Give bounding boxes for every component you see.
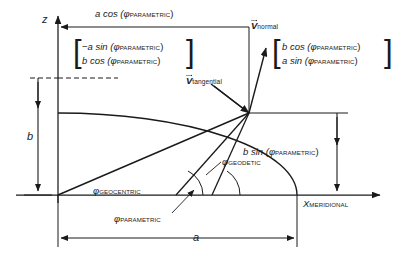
label-a-cos-phi: a cos (φPARAMETRIC) bbox=[95, 9, 173, 19]
matrix-normal-row-2: a sin (φPARAMETRIC) bbox=[282, 55, 360, 67]
tangential-r2-prefix: b cos ( bbox=[82, 55, 111, 66]
vector-arrow-accent-tangential bbox=[186, 74, 192, 77]
label-phi-parametric-sub: PARAMETRIC bbox=[120, 216, 161, 223]
matrix-normal-right-bracket: ] bbox=[384, 36, 393, 67]
vector-normal-arrow bbox=[249, 48, 266, 113]
label-a-cos-phi-suffix: ) bbox=[170, 8, 173, 19]
tangential-r2-sub: PARAMETRIC bbox=[117, 58, 158, 65]
ray-group bbox=[58, 113, 249, 195]
tangential-r1-prefix: −a sin ( bbox=[82, 41, 113, 52]
normal-r2-prefix: a sin ( bbox=[282, 55, 308, 66]
leader-parametric bbox=[172, 190, 194, 213]
matrix-normal-row-1: b cos (φPARAMETRIC) bbox=[282, 41, 360, 53]
label-a-cos-phi-prefix: a cos ( bbox=[95, 8, 124, 19]
arc-parametric bbox=[188, 171, 203, 195]
label-a-cos-phi-sub: PARAMETRIC bbox=[130, 11, 171, 18]
vector-tangential-arrow bbox=[211, 84, 249, 113]
label-phi-geodetic-sub: GEODETIC bbox=[228, 159, 261, 166]
matrix-normal-left-bracket: [ bbox=[272, 36, 281, 67]
label-x-meridional: XMERIDIONAL bbox=[303, 199, 348, 209]
vector-tangential-sub: tangential bbox=[192, 78, 222, 85]
matrix-tangential-row-1: −a sin (φPARAMETRIC) bbox=[82, 41, 163, 53]
label-phi-geocentric-sub: GEOCENTRIC bbox=[99, 188, 141, 195]
diagram-vector-layer bbox=[0, 0, 406, 255]
label-phi-parametric: φPARAMETRIC bbox=[114, 214, 161, 224]
label-semi-minor-b: b bbox=[27, 131, 33, 142]
matrix-tangential-right-bracket: ] bbox=[186, 36, 195, 67]
normal-r2-suffix: ) bbox=[355, 55, 358, 66]
tangential-r2-suffix: ) bbox=[157, 55, 160, 66]
vector-arrow-accent-normal bbox=[251, 19, 257, 22]
vector-normal-label: V normal bbox=[251, 21, 278, 31]
matrix-normal: [ ] b cos (φPARAMETRIC) a sin (φPARAMETR… bbox=[282, 41, 360, 67]
label-x-meridional-sub: MERIDIONAL bbox=[309, 201, 348, 208]
label-b-sin-phi: b sin (φPARAMETRIC) bbox=[243, 147, 319, 157]
tangential-r1-sub: PARAMETRIC bbox=[120, 44, 161, 51]
label-semi-major-a: a bbox=[193, 232, 199, 243]
tangential-r1-suffix: ) bbox=[160, 41, 163, 52]
ray-geocentric bbox=[58, 113, 249, 195]
normal-r2-sub: PARAMETRIC bbox=[314, 58, 355, 65]
dimension-a-cos-phi bbox=[61, 27, 249, 113]
matrix-tangential-row-2: b cos (φPARAMETRIC) bbox=[82, 55, 163, 67]
leader-geodetic bbox=[206, 162, 221, 175]
vector-tangential-label: V tangential bbox=[186, 76, 222, 86]
label-b-sin-prefix: b sin ( bbox=[243, 146, 269, 157]
z-axis-label: z bbox=[42, 14, 48, 25]
label-b-sin-sub: PARAMETRIC bbox=[275, 149, 316, 156]
label-phi-geocentric: φGEOCENTRIC bbox=[93, 186, 141, 196]
vector-normal-name: V bbox=[251, 21, 257, 31]
label-phi-geodetic: φGEODETIC bbox=[222, 157, 261, 167]
normal-r1-suffix: ) bbox=[357, 41, 360, 52]
diagram-canvas: z a cos (φPARAMETRIC) [ ] −a sin (φPARAM… bbox=[0, 0, 406, 255]
leader-line-group bbox=[172, 162, 221, 213]
matrix-tangential-left-bracket: [ bbox=[73, 36, 82, 67]
label-b-sin-suffix: ) bbox=[316, 146, 319, 157]
arc-geodetic bbox=[227, 171, 240, 195]
normal-r1-sub: PARAMETRIC bbox=[317, 44, 358, 51]
matrix-tangential: [ ] −a sin (φPARAMETRIC) b cos (φPARAMET… bbox=[82, 41, 163, 67]
normal-r1-prefix: b cos ( bbox=[282, 41, 311, 52]
vector-normal-sub: normal bbox=[257, 23, 278, 30]
vector-tangential-name: V bbox=[186, 76, 192, 86]
